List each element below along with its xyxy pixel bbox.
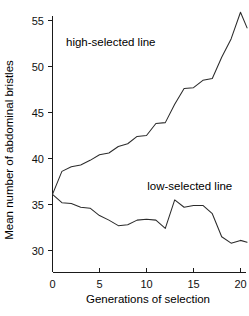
annotation-low-selected-line: low-selected line [147,180,232,192]
y-tick-label-30: 30 [32,245,44,257]
y-tick-label-45: 45 [32,107,44,119]
y-axis-ticks: 55 50 45 40 35 30 [32,15,53,257]
x-tick-label-0: 0 [49,278,55,290]
series-line-low-selected [53,194,248,243]
x-tick-label-20: 20 [234,278,246,290]
x-tick-label-5: 5 [96,278,102,290]
x-axis-ticks: 0 5 10 15 20 [49,268,246,291]
x-tick-label-15: 15 [187,278,199,290]
y-tick-label-35: 35 [32,199,44,211]
x-axis-title: Generations of selection [86,293,210,305]
chart-figure: Mean number of abdominal bristles Genera… [0,0,249,316]
y-tick-label-50: 50 [32,61,44,73]
x-tick-label-10: 10 [140,278,152,290]
y-axis-title: Mean number of abdominal bristles [3,60,15,240]
line-chart-canvas: Mean number of abdominal bristles Genera… [0,0,249,316]
y-tick-label-40: 40 [32,153,44,165]
annotation-high-selected-line: high-selected line [66,36,156,48]
y-tick-label-55: 55 [32,15,44,27]
